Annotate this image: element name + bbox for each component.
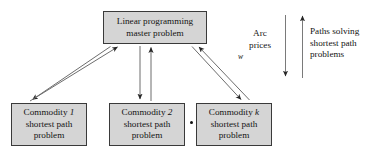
master-line-1: Linear programming	[117, 16, 193, 27]
commodity1-index: 1	[70, 107, 75, 117]
paths-line-2: shortest path	[310, 38, 379, 50]
commodity2-index: 2	[168, 107, 173, 117]
node-commodity-k[interactable]: Commodity k shortest path problem	[196, 103, 272, 146]
commodity1-label: Commodity	[24, 107, 70, 117]
commodity2-line-2: shortest path	[124, 119, 171, 130]
node-commodity-2[interactable]: Commodity 2 shortest path problem	[109, 103, 185, 146]
commodity1-line-1: Commodity 1	[24, 107, 75, 118]
paths-line-1: Paths solving	[310, 26, 379, 38]
annotation-paths-solving: Paths solving shortest path problems	[310, 26, 379, 61]
commodity2-line-3: problem	[132, 130, 163, 141]
node-master-problem[interactable]: Linear programming master problem	[103, 11, 207, 44]
commodity2-line-1: Commodity 2	[122, 107, 173, 118]
node-commodity-1[interactable]: Commodity 1 shortest path problem	[11, 103, 87, 146]
commodityk-label: Commodity	[209, 107, 255, 117]
commodityk-line-1: Commodity k	[209, 107, 259, 118]
decomposition-diagram: Linear programming master problem Commod…	[0, 0, 379, 155]
commodityk-line-2: shortest path	[211, 119, 258, 130]
paths-line-3: problems	[310, 49, 379, 61]
commodityk-line-3: problem	[219, 130, 250, 141]
annotation-arc-prices: Arc prices w	[238, 28, 282, 63]
arc-prices-line-1: Arc	[238, 28, 282, 40]
commodity1-line-3: problem	[34, 130, 65, 141]
arc-prices-line-2: prices	[238, 40, 282, 52]
ellipsis-dot-1	[190, 121, 193, 124]
master-line-2: master problem	[126, 28, 183, 39]
commodity2-label: Commodity	[122, 107, 168, 117]
arc-prices-symbol: w	[238, 51, 282, 63]
commodity1-line-2: shortest path	[26, 119, 73, 130]
commodityk-index: k	[255, 107, 259, 117]
